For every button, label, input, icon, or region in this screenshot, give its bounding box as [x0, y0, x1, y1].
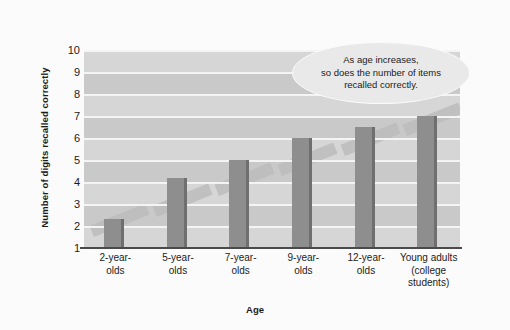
y-tick-label: 9	[58, 67, 80, 78]
x-axis-tick-labels: 2-year- olds5-year- olds7-year- olds9-ye…	[84, 252, 460, 304]
x-axis-title: Age	[0, 304, 510, 315]
bar	[167, 178, 187, 248]
x-axis-line	[80, 247, 462, 249]
background-band	[84, 226, 460, 248]
y-tick-label: 1	[58, 243, 80, 254]
y-tick-label: 3	[58, 199, 80, 210]
bar	[355, 127, 375, 248]
gridline	[84, 116, 460, 118]
gridline	[84, 204, 460, 206]
gridline	[84, 182, 460, 184]
bar	[104, 219, 124, 248]
annotation-text: As age increases, so does the number of …	[315, 54, 447, 92]
y-tick-label: 10	[58, 45, 80, 56]
y-tick-label: 7	[58, 111, 80, 122]
y-axis-tick-labels: 10987654321	[58, 50, 80, 248]
background-band	[84, 138, 460, 160]
bar	[417, 116, 437, 248]
gridline	[84, 138, 460, 140]
y-tick-label: 8	[58, 89, 80, 100]
bar-chart-figure: Number of digits recalled correctly 1098…	[0, 0, 510, 330]
annotation-callout: As age increases, so does the number of …	[292, 42, 470, 104]
y-tick-label: 2	[58, 221, 80, 232]
gridline	[84, 226, 460, 228]
y-tick-label: 4	[58, 177, 80, 188]
gridline	[84, 160, 460, 162]
bar	[229, 160, 249, 248]
bar	[292, 138, 312, 248]
background-band	[84, 182, 460, 204]
x-tick-label: Young adults (college students)	[392, 252, 466, 290]
y-tick-label: 5	[58, 155, 80, 166]
y-axis-title: Number of digits recalled correctly	[39, 38, 50, 258]
y-tick-label: 6	[58, 133, 80, 144]
